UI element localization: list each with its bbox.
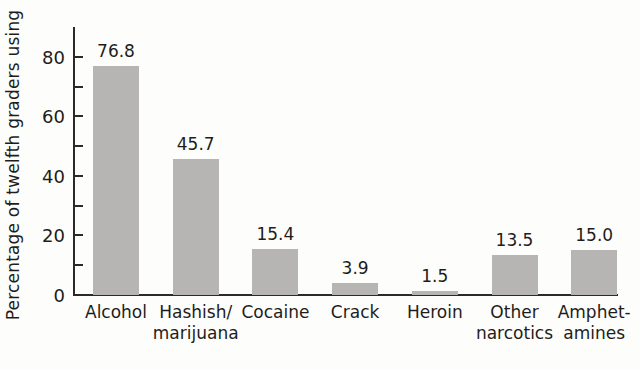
bar-crack xyxy=(332,283,378,295)
bar-alcohol xyxy=(93,66,139,295)
y-tick-mark xyxy=(75,234,83,236)
y-tick-label: 80 xyxy=(27,46,65,67)
y-tick-mark xyxy=(75,264,83,266)
y-tick-label: 60 xyxy=(27,106,65,127)
y-tick-mark xyxy=(75,145,83,147)
bar-value-heroin: 1.5 xyxy=(395,266,475,286)
y-tick-label: 20 xyxy=(27,225,65,246)
bar-heroin xyxy=(412,291,458,295)
y-tick-mark xyxy=(75,86,83,88)
bar-cocaine xyxy=(252,249,298,295)
y-tick-mark xyxy=(75,205,83,207)
y-axis-title: Percentage of twelfth graders using xyxy=(3,10,23,321)
bar-value-crack: 3.9 xyxy=(315,258,395,278)
y-axis-line xyxy=(73,27,75,296)
plot-area: 02040608076.8Alcohol45.7Hashish/ marijua… xyxy=(73,27,618,295)
bar-value-hashish: 45.7 xyxy=(156,134,236,154)
bar-category-amphet: Amphet- amines xyxy=(534,302,640,343)
y-tick-mark xyxy=(75,175,83,177)
y-tick-label: 40 xyxy=(27,165,65,186)
bar-value-other: 13.5 xyxy=(475,230,555,250)
bar-chart-figure: Percentage of twelfth graders using 0204… xyxy=(0,0,640,370)
bar-value-alcohol: 76.8 xyxy=(76,41,156,61)
bar-other xyxy=(492,255,538,295)
y-tick-mark xyxy=(75,115,83,117)
bar-value-amphet: 15.0 xyxy=(554,225,634,245)
bar-hashish xyxy=(173,159,219,295)
bar-amphet xyxy=(571,250,617,295)
bar-value-cocaine: 15.4 xyxy=(235,224,315,244)
